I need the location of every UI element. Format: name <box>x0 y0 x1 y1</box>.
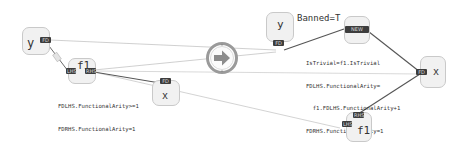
port-rhs[interactable]: RHS <box>85 68 96 74</box>
annotation-line: FDRHS.FunctionalArity=1 <box>58 126 139 134</box>
annotation-line: FDLHS.FunctionalArity>=1 <box>58 103 139 111</box>
node-label: y <box>27 37 34 49</box>
edge-lhs-f1-to-rhs-y <box>94 52 276 70</box>
node-label: y <box>277 19 284 30</box>
rule-diagram-canvas: y FD f1 LHS RHS x FD FDLHS.FunctionalAri… <box>0 0 468 147</box>
banned-annotation: Banned=T <box>297 13 340 23</box>
port-fd[interactable]: FD <box>416 69 427 75</box>
port-new[interactable]: NEW <box>345 26 369 33</box>
port-lhs[interactable]: LHS <box>342 121 352 127</box>
edge-lhs-y-to-rhs-y <box>50 40 276 50</box>
node-label: x <box>433 67 439 77</box>
port-lhs[interactable]: LHS <box>66 68 76 74</box>
port-rhs[interactable]: RHS <box>353 112 364 118</box>
lhs-annotation: FDLHS.FunctionalArity>=1 FDRHS.Functiona… <box>58 88 139 147</box>
edge-lhs-f1-x <box>94 72 160 83</box>
rhs-node-y[interactable]: y <box>266 12 294 42</box>
port-fd[interactable]: FD <box>273 40 284 46</box>
annotation-line: FDLHS.FunctionalArity= <box>306 83 400 91</box>
annotation-line: IsTrivial=f1.IsTrivial <box>306 60 400 68</box>
port-fd[interactable]: FD <box>40 37 51 43</box>
node-label: x <box>162 91 168 101</box>
port-fd[interactable]: FD <box>160 78 171 84</box>
node-label: f1 <box>357 125 370 136</box>
arrow-right-icon <box>205 41 239 75</box>
